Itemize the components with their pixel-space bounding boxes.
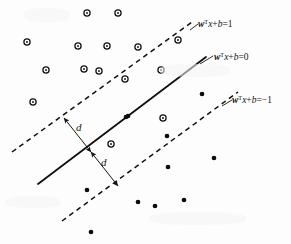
data-point-filled-dot (165, 134, 170, 139)
data-point-open-circle-center (160, 69, 162, 71)
equation-labels: wTx+b=1 wTx+b=0 wTx+b=−1 (198, 18, 272, 106)
svm-diagram-canvas: wTx+b=1 wTx+b=0 wTx+b=−1 d d (0, 0, 291, 244)
data-point-open-circle-center (117, 12, 119, 14)
label-upper-boundary: wTx+b=1 (198, 18, 233, 30)
data-points-open-circles (24, 10, 181, 147)
data-point-open-circle-center (98, 70, 100, 72)
data-point-open-circle-center (32, 101, 34, 103)
margin-arrows (64, 118, 118, 186)
data-point-open-circle-center (45, 69, 47, 71)
data-point-filled-dot (89, 230, 94, 235)
lower-margin-boundary-line (62, 92, 238, 221)
data-point-filled-dot (166, 165, 171, 170)
data-point-open-circle-center (86, 12, 88, 14)
data-point-open-circle-center (137, 46, 139, 48)
data-point-open-circle-center (26, 41, 28, 43)
margin-label-lower: d (101, 156, 107, 168)
data-point-open-circle-center (124, 78, 126, 80)
data-point-open-circle-center (110, 143, 112, 145)
data-point-filled-dot (182, 198, 187, 203)
data-point-open-circle-center (83, 68, 85, 70)
data-point-filled-dot (85, 188, 90, 193)
label-decision-boundary: wTx+b=0 (214, 51, 249, 63)
leader-line-upper-boundary (190, 24, 198, 30)
decision-boundary-line (38, 57, 206, 184)
data-point-filled-dot (212, 156, 217, 161)
data-point-filled-dot (153, 204, 158, 209)
data-point-filled-dot (124, 115, 129, 120)
hyperplane-lines (12, 22, 238, 221)
data-point-open-circle-center (162, 117, 164, 119)
margin-label-upper: d (76, 121, 82, 133)
data-point-filled-dot (200, 92, 205, 97)
svm-margin-figure: wTx+b=1 wTx+b=0 wTx+b=−1 d d (0, 0, 291, 244)
data-point-open-circle-center (177, 39, 179, 41)
data-point-open-circle-center (106, 45, 108, 47)
data-point-filled-dot (136, 200, 141, 205)
label-lower-boundary: wTx+b=−1 (232, 94, 272, 106)
data-point-open-circle-center (77, 45, 79, 47)
